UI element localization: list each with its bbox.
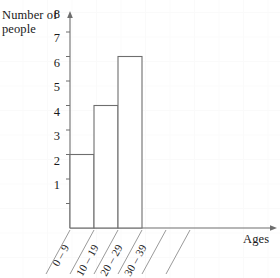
bar-20-29	[118, 57, 142, 229]
x-axis-arrow-icon	[270, 225, 277, 231]
bar-10-19	[94, 106, 118, 229]
y-axis-ticks	[66, 32, 70, 204]
bar-0-9	[70, 155, 94, 229]
bars	[70, 57, 142, 229]
x-axis-category-separators	[46, 230, 190, 274]
plot-area	[0, 0, 280, 278]
histogram-chart: Number ofpeople Ages 1 2 3 4 5 6 7 8 0 –…	[0, 0, 280, 278]
y-axis-arrow-icon	[67, 11, 73, 18]
